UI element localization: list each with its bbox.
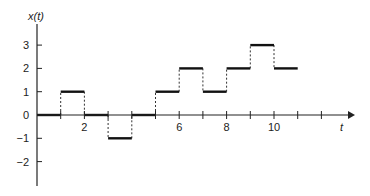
x-tick-label: 2 xyxy=(81,121,87,133)
y-tick-label: 1 xyxy=(23,86,29,98)
y-axis-label: x(t) xyxy=(27,10,44,22)
signal-segments xyxy=(37,45,298,138)
y-tick-label: 2 xyxy=(23,62,29,74)
x-axis-arrow-icon xyxy=(348,111,355,119)
y-tick-label: 3 xyxy=(23,39,29,51)
x-tick-label: 8 xyxy=(224,121,230,133)
y-tick-label: 0 xyxy=(23,109,29,121)
y-ticks: −2−10123 xyxy=(16,39,42,168)
x-axis-label: t xyxy=(340,121,344,133)
x-tick-label: 6 xyxy=(176,121,182,133)
y-tick-label: −2 xyxy=(16,156,29,168)
y-tick-label: −1 xyxy=(16,132,29,144)
step-signal-chart: 26810 −2−10123 x(t) t xyxy=(0,0,370,196)
x-tick-label: 10 xyxy=(268,121,280,133)
